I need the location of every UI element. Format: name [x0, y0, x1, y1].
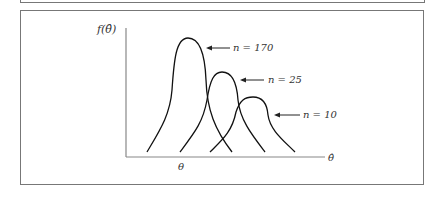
sampling-distribution-diagram: f(θ̂) n = 170 n = 25 n = 10 θ θ̂ [0, 0, 441, 198]
annotation-n10: n = 10 [303, 109, 338, 120]
x-tick-theta: θ [178, 161, 184, 172]
density-curve-n170 [147, 38, 232, 152]
annotation-n25: n = 25 [268, 74, 302, 85]
x-axis-label: θ̂ [328, 152, 334, 163]
arrow-n170 [206, 46, 230, 51]
arrow-n25 [240, 78, 264, 83]
density-curve-n10 [210, 97, 295, 152]
annotation-n170: n = 170 [233, 42, 274, 53]
y-axis-label: f(θ̂) [96, 23, 116, 36]
arrow-n10 [274, 113, 300, 118]
